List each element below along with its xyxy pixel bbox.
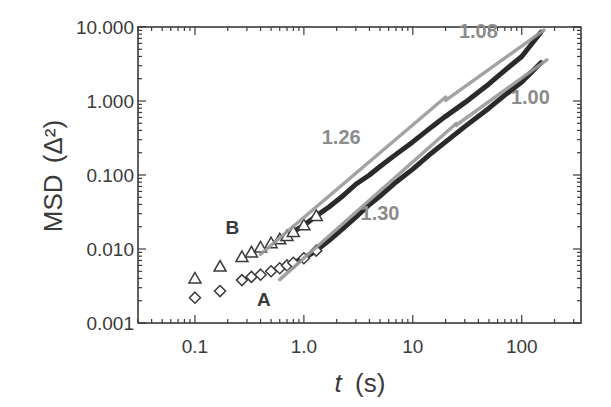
slope-label: 1.26 <box>322 126 361 148</box>
y-axis-title: MSD (Δ²) <box>38 120 68 232</box>
diamond-marker <box>215 286 226 297</box>
series-A <box>189 63 540 304</box>
y-axis-quantity: MSD <box>38 174 68 232</box>
y-tick-label: 0.010 <box>86 239 134 260</box>
msd-chart: 0.0010.0100.1001.00010.000 0.11.010100 1… <box>0 0 611 407</box>
y-tick-label: 0.001 <box>86 313 134 334</box>
x-tick-label: 0.1 <box>182 336 208 357</box>
plot-border <box>138 27 581 323</box>
x-tick-label: 1.0 <box>291 336 317 357</box>
plot-frame <box>138 27 581 323</box>
slope-label: 1.00 <box>511 86 550 108</box>
x-axis-title: t (s) <box>335 368 386 398</box>
y-axis-unit: (Δ²) <box>38 120 68 163</box>
series-label-A: A <box>257 289 271 310</box>
diamond-marker <box>255 269 266 280</box>
triangle-marker <box>214 261 226 272</box>
diamond-marker <box>189 292 200 303</box>
triangle-marker <box>189 272 201 283</box>
y-tick-labels: 0.0010.0100.1001.00010.000 <box>76 17 134 334</box>
series-label-B: B <box>225 217 239 238</box>
slope-label: 1.30 <box>361 202 400 224</box>
x-tick-label: 10 <box>402 336 423 357</box>
annotations: 1.261.081.301.00AB <box>225 20 549 309</box>
x-axis-unit: (s) <box>355 368 385 398</box>
x-axis-variable: t <box>335 368 344 398</box>
x-tick-label: 100 <box>506 336 538 357</box>
x-tick-labels: 0.11.010100 <box>182 336 538 357</box>
slope-label: 1.08 <box>459 20 498 42</box>
axis-ticks <box>138 27 581 323</box>
y-tick-label: 10.000 <box>76 17 134 38</box>
fit-line-1-26 <box>261 97 446 254</box>
fit-lines <box>261 30 547 279</box>
y-tick-label: 0.100 <box>86 165 134 186</box>
y-tick-label: 1.000 <box>86 91 134 112</box>
